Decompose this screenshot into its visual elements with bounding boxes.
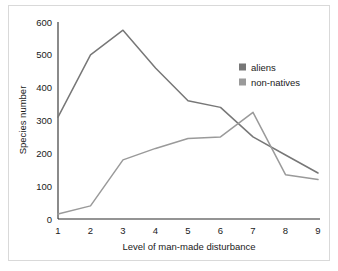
series-line-aliens [58,30,318,173]
x-tick-label-4: 4 [153,225,158,236]
y-tick-label-300: 300 [36,115,52,126]
x-tick-label-1: 1 [55,225,60,236]
chart-figure: 600 500 400 300 200 100 0 Species number… [0,0,338,271]
y-tick-label-500: 500 [36,49,52,60]
y-tick-label-200: 200 [36,148,52,159]
x-tick-label-6: 6 [218,225,223,236]
legend-swatch-aliens [239,64,246,71]
y-tick-label-100: 100 [36,181,52,192]
legend-swatch-non-natives [239,79,246,86]
y-tick-label-400: 400 [36,82,52,93]
legend-label-aliens: aliens [251,62,276,73]
x-axis-title: Level of man-made disturbance [122,241,255,252]
chart-legend: aliens non-natives [239,62,300,88]
x-tick-label-2: 2 [88,225,93,236]
x-tick-label-7: 7 [250,225,255,236]
y-tick-label-0: 0 [47,214,52,225]
x-tick-label-3: 3 [120,225,125,236]
x-tick-label-9: 9 [315,225,320,236]
x-tick-label-8: 8 [283,225,288,236]
y-axis-title: Species number [17,86,28,155]
legend-label-non-natives: non-natives [251,77,300,88]
series-line-non-natives [58,112,318,214]
x-tick-label-5: 5 [185,225,190,236]
line-chart-canvas: 600 500 400 300 200 100 0 Species number… [0,0,338,271]
y-tick-label-600: 600 [36,17,52,28]
